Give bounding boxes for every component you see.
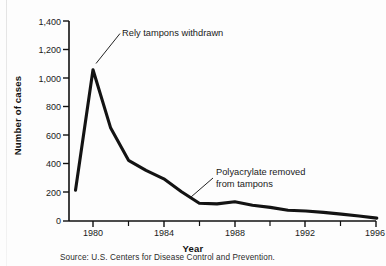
- plot-area: [0, 0, 386, 266]
- annotation-rely-line-1: Rely tampons withdrawn: [122, 28, 223, 40]
- y-tick-marks: [63, 21, 69, 221]
- annotation-polyacrylate-line-1: Polyacrylate removed: [216, 167, 305, 179]
- data-line-tss-cases: [76, 70, 377, 218]
- source-note: Source: U.S. Centers for Disease Control…: [60, 253, 275, 262]
- annotation-polyacrylate-removed: Polyacrylate removed from tampons: [216, 167, 305, 190]
- annotation-leader-polyacrylate: [191, 178, 213, 197]
- chart-figure: Number of cases Year 1,400 1,200 1,000 8…: [0, 0, 386, 266]
- annotation-leader-rely: [96, 34, 120, 64]
- annotation-rely-tampons-withdrawn: Rely tampons withdrawn: [122, 28, 223, 40]
- annotation-polyacrylate-line-2: from tampons: [216, 179, 305, 191]
- x-major-tick-marks: [93, 221, 376, 227]
